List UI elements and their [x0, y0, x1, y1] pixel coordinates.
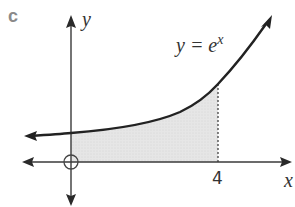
exponential-curve — [30, 24, 266, 136]
diagram-canvas — [0, 0, 295, 207]
curve-equation-label: y = ex — [176, 32, 223, 57]
part-label: c — [8, 6, 18, 27]
x-axis-label: x — [284, 169, 293, 192]
x-tick-label-4: 4 — [212, 168, 223, 188]
exponential-area-diagram: c y y = ex x 4 — [0, 0, 295, 207]
equation-exponent: x — [217, 32, 223, 47]
y-axis-label: y — [82, 8, 91, 31]
equation-base: y = e — [176, 34, 217, 56]
